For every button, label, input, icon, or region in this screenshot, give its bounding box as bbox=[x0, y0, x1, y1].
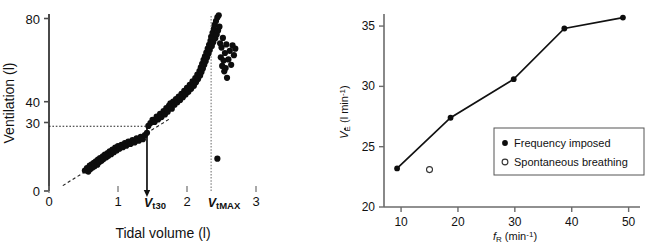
ventilation-tidal-volume-chart: 0 30 40 80 0 1 2 3 Vt30 VtMAX bbox=[0, 0, 330, 249]
right-ytick-label: 30 bbox=[362, 79, 376, 93]
right-y-title-rest: (l min bbox=[338, 96, 350, 126]
right-x-title-rest: (min bbox=[502, 230, 526, 242]
scatter-point bbox=[225, 56, 231, 62]
spontaneous-breathing-point bbox=[427, 167, 433, 173]
figure-container: 0 30 40 80 0 1 2 3 Vt30 VtMAX bbox=[0, 0, 659, 249]
left-ytick-40: 40 bbox=[26, 95, 40, 110]
legend: Frequency imposed Spontaneous breathing bbox=[494, 128, 644, 175]
right-ytick-label: 35 bbox=[362, 19, 376, 33]
right-y-title-tail: ) bbox=[338, 85, 350, 89]
left-ytick-0: 0 bbox=[33, 184, 40, 199]
left-x-axis-title: Tidal volume (l) bbox=[115, 225, 210, 241]
right-x-ticks: 1020304050 bbox=[394, 207, 635, 229]
legend-label-frequency-imposed: Frequency imposed bbox=[514, 137, 611, 149]
scatter-point bbox=[224, 75, 230, 81]
scatter-point bbox=[214, 156, 220, 162]
right-y-axis-title: VE (l min-1) bbox=[338, 85, 352, 138]
right-y-ticks: 20253035 bbox=[362, 19, 384, 214]
frequency-imposed-point bbox=[511, 76, 517, 82]
scatter-point bbox=[223, 41, 229, 47]
vtmax-axis-label: VtMAX bbox=[208, 196, 241, 211]
right-ytick-label: 20 bbox=[362, 200, 376, 214]
left-ytick-80: 80 bbox=[26, 12, 40, 27]
right-xtick-label: 30 bbox=[508, 215, 522, 229]
left-scatter-panel: 0 30 40 80 0 1 2 3 Vt30 VtMAX bbox=[0, 0, 330, 249]
legend-label-spontaneous-breathing: Spontaneous breathing bbox=[514, 156, 628, 168]
legend-open-circle-icon bbox=[502, 159, 508, 165]
left-scatter-points bbox=[82, 12, 239, 175]
scatter-point bbox=[144, 130, 150, 136]
vt30-axis-label: Vt30 bbox=[144, 196, 166, 211]
left-xtick-3: 3 bbox=[252, 194, 259, 209]
left-xtick-1: 1 bbox=[114, 194, 121, 209]
right-x-axis-title: fR (min-1) bbox=[493, 230, 537, 244]
left-y-axis-title: Ventilation (l) bbox=[1, 63, 17, 144]
scatter-point bbox=[216, 12, 222, 18]
frequency-imposed-point bbox=[394, 166, 400, 172]
left-x-ticks bbox=[49, 186, 256, 193]
left-xtick-2: 2 bbox=[183, 194, 190, 209]
left-xtick-0: 0 bbox=[45, 194, 52, 209]
right-line-panel: 20253035 1020304050 Frequency imposed Sp… bbox=[330, 0, 659, 249]
right-ytick-label: 25 bbox=[362, 140, 376, 154]
legend-filled-circle-icon bbox=[502, 140, 508, 146]
scatter-point bbox=[220, 35, 226, 41]
scatter-point bbox=[228, 62, 234, 68]
right-xtick-label: 10 bbox=[394, 215, 408, 229]
right-x-title-tail: ) bbox=[533, 230, 537, 242]
scatter-point bbox=[232, 46, 238, 52]
scatter-point bbox=[231, 52, 237, 58]
left-guide-lines bbox=[49, 14, 211, 197]
frequency-imposed-point bbox=[620, 15, 626, 21]
right-xtick-label: 40 bbox=[565, 215, 579, 229]
ve-fr-chart: 20253035 1020304050 Frequency imposed Sp… bbox=[330, 0, 659, 249]
v-dot-accent-icon bbox=[344, 128, 346, 130]
frequency-imposed-point bbox=[448, 115, 454, 121]
left-ytick-30: 30 bbox=[26, 116, 40, 131]
vtmax-suffix: MAX bbox=[219, 200, 241, 211]
scatter-point bbox=[216, 24, 222, 30]
frequency-imposed-point bbox=[561, 26, 567, 32]
scatter-point bbox=[223, 65, 229, 71]
vt30-suffix: 30 bbox=[155, 200, 166, 211]
right-xtick-label: 50 bbox=[622, 215, 636, 229]
right-xtick-label: 20 bbox=[451, 215, 465, 229]
